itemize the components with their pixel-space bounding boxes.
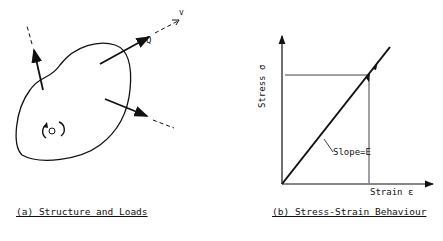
x-axis-label: Strain ε	[370, 187, 413, 197]
caption-b: (b) Stress-Strain Behaviour	[272, 206, 426, 217]
direction-label-v: v	[179, 8, 184, 17]
figure-canvas	[0, 0, 443, 241]
slope-label: Slope=E	[333, 147, 371, 157]
slope-leader	[324, 139, 333, 152]
y-axis-label: Stress σ	[257, 65, 267, 108]
load-arrow-q	[100, 20, 179, 64]
moment-symbol	[43, 122, 65, 138]
load-arrow-upper-left	[27, 26, 43, 90]
stress-strain-line	[282, 47, 390, 184]
load-arrow-lower-right	[105, 99, 174, 128]
caption-a: (a) Structure and Loads	[16, 206, 148, 217]
load-label-q: Q	[146, 35, 151, 45]
